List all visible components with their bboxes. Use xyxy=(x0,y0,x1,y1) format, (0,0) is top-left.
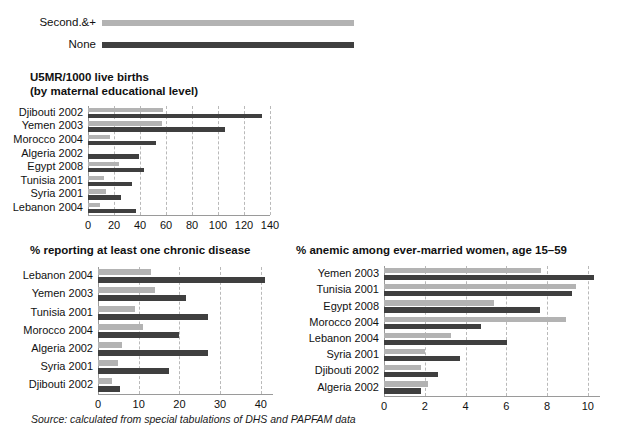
category-axis: Lebanon 2004Yemen 2003Tunisia 2001Morocc… xyxy=(0,257,98,412)
bar-dark xyxy=(384,275,594,280)
gridline xyxy=(588,266,589,396)
x-axis-line xyxy=(88,215,270,216)
bar-light xyxy=(98,378,112,384)
x-tick-label: 10 xyxy=(124,399,154,410)
category-label: Morocco 2004 xyxy=(0,134,83,145)
gridline xyxy=(218,106,219,215)
legend-swatch-none xyxy=(102,42,354,48)
chart-u5mr-title-line1: U5MR/1000 live births xyxy=(30,71,149,83)
bar-dark xyxy=(88,141,156,146)
category-label: Morocco 2004 xyxy=(0,325,93,336)
category-label: Yemen 2003 xyxy=(0,288,93,299)
bar-dark xyxy=(88,209,136,214)
x-tick-label: 40 xyxy=(246,399,276,410)
bar-light xyxy=(98,360,118,366)
bar-light xyxy=(384,381,428,386)
bar-dark xyxy=(98,368,169,374)
category-label: Tunisia 2001 xyxy=(0,175,83,186)
bar-dark xyxy=(88,114,262,119)
category-label: Morocco 2004 xyxy=(287,317,379,328)
gridline xyxy=(166,106,167,215)
category-label: Djibouti 2002 xyxy=(0,379,93,390)
bar-light xyxy=(88,108,163,113)
bar-dark xyxy=(88,154,139,159)
category-label: Yemen 2003 xyxy=(287,268,379,279)
bar-light xyxy=(88,121,162,126)
x-tick-label: 20 xyxy=(164,399,194,410)
bar-light xyxy=(384,365,421,370)
x-tick-label: 0 xyxy=(369,401,399,412)
bar-dark xyxy=(98,332,179,338)
category-label: Algeria 2002 xyxy=(0,148,83,159)
category-label: Algeria 2002 xyxy=(287,382,379,393)
x-axis-line xyxy=(384,396,600,397)
bar-light xyxy=(88,162,119,167)
bar-dark xyxy=(88,182,132,187)
category-label: Tunisia 2001 xyxy=(0,307,93,318)
series-legend: Second.&+ None xyxy=(0,14,360,60)
bar-light xyxy=(88,189,106,194)
legend-swatch-secondary xyxy=(102,20,354,26)
bar-dark xyxy=(384,291,572,296)
category-axis: Yemen 2003Tunisia 2001Egypt 2008Morocco … xyxy=(292,257,384,414)
chart-chronic-title: % reporting at least one chronic disease xyxy=(30,243,300,257)
bar-light xyxy=(384,333,451,338)
chart-u5mr: U5MR/1000 live births (by maternal educa… xyxy=(0,70,310,233)
gridline xyxy=(192,106,193,215)
bar-light xyxy=(384,300,494,305)
bar-light xyxy=(98,287,155,293)
legend-label-secondary: Second.&+ xyxy=(0,17,102,29)
x-tick-label: 30 xyxy=(205,399,235,410)
chart-anemia-title-line1: % anemic among ever-married women, age 1… xyxy=(296,244,567,256)
plot-canvas xyxy=(384,266,600,396)
chart-u5mr-title: U5MR/1000 live births (by maternal educa… xyxy=(30,70,310,98)
chart-chronic-disease: % reporting at least one chronic disease… xyxy=(0,243,300,412)
gridline xyxy=(261,267,262,394)
category-label: Syria 2001 xyxy=(0,361,93,372)
category-label: Djibouti 2002 xyxy=(0,107,83,118)
x-tick-label: 10 xyxy=(573,401,603,412)
bar-light xyxy=(88,203,100,208)
category-label: Lebanon 2004 xyxy=(0,202,83,213)
x-tick-label: 140 xyxy=(255,220,285,231)
chart-chronic-plot-area: Lebanon 2004Yemen 2003Tunisia 2001Morocc… xyxy=(0,257,287,412)
bar-dark xyxy=(98,386,120,392)
bar-light xyxy=(88,148,89,153)
bar-dark xyxy=(98,350,208,356)
category-label: Syria 2001 xyxy=(287,349,379,360)
bar-light xyxy=(384,284,576,289)
gridline xyxy=(179,267,180,394)
gridline xyxy=(270,106,271,215)
x-tick-label: 4 xyxy=(451,401,481,412)
bar-dark xyxy=(88,168,144,173)
bar-light xyxy=(384,268,541,273)
category-label: Djibouti 2002 xyxy=(287,365,379,376)
bar-light xyxy=(88,135,110,140)
bar-dark xyxy=(98,277,265,283)
chart-anemia: % anemic among ever-married women, age 1… xyxy=(292,243,624,414)
bar-dark xyxy=(384,324,481,329)
bar-dark xyxy=(384,307,540,312)
bar-dark xyxy=(98,295,186,301)
category-axis: Djibouti 2002Yemen 2003Morocco 2004Alger… xyxy=(0,98,88,233)
bar-dark xyxy=(88,127,225,132)
x-tick-label: 8 xyxy=(532,401,562,412)
bar-light xyxy=(98,269,151,275)
chart-anemia-title: % anemic among ever-married women, age 1… xyxy=(296,243,624,257)
category-label: Algeria 2002 xyxy=(0,343,93,354)
bar-dark xyxy=(384,388,421,393)
legend-item-none: None xyxy=(0,36,360,54)
bar-light xyxy=(98,342,122,348)
category-label: Yemen 2003 xyxy=(0,120,83,131)
chart-u5mr-title-line2: (by maternal educational level) xyxy=(30,84,310,98)
bar-light xyxy=(98,324,143,330)
category-label: Syria 2001 xyxy=(0,188,83,199)
category-label: Tunisia 2001 xyxy=(287,284,379,295)
x-tick-label: 0 xyxy=(83,399,113,410)
chart-chronic-title-line1: % reporting at least one chronic disease xyxy=(30,244,250,256)
plot-canvas xyxy=(88,106,270,215)
x-tick-label: 6 xyxy=(491,401,521,412)
bar-light xyxy=(384,349,425,354)
legend-label-none: None xyxy=(0,39,102,51)
bar-light xyxy=(98,306,135,312)
